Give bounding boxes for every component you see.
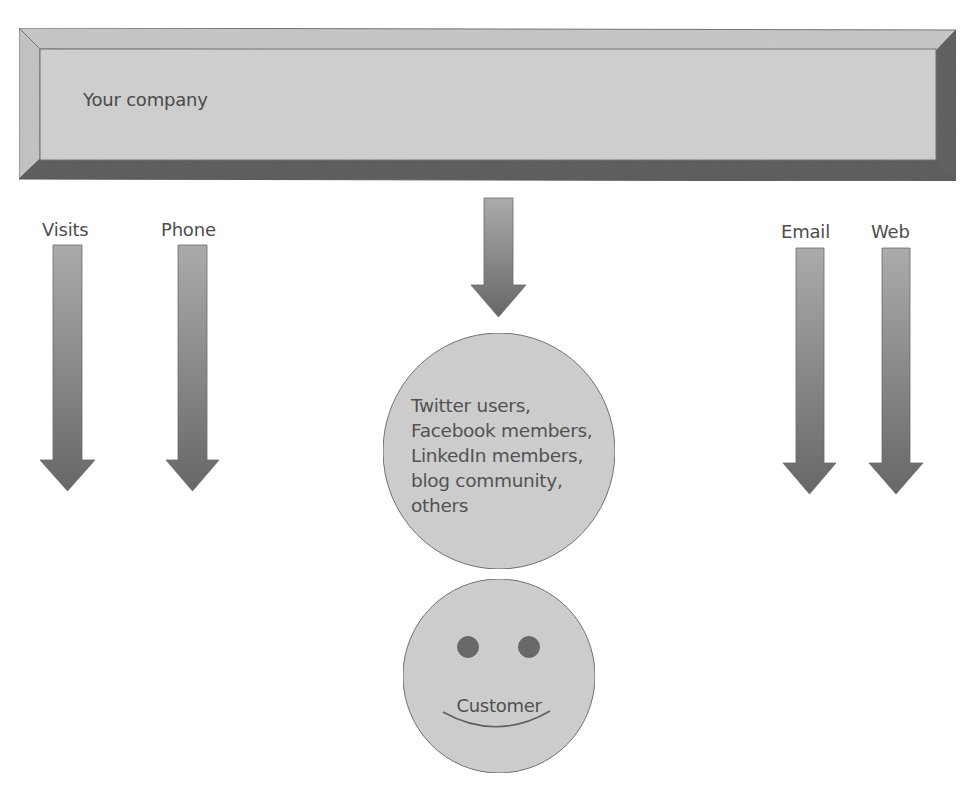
phone-arrow — [166, 245, 219, 491]
diagram-canvas: Your company Visits Phone Email Web Twit… — [0, 0, 974, 810]
community-line: blog community, — [411, 468, 592, 493]
channel-label-phone: Phone — [161, 219, 216, 240]
channel-label-visits: Visits — [42, 219, 89, 240]
community-line: LinkedIn members, — [411, 443, 592, 468]
left-eye-icon — [458, 637, 479, 658]
channel-label-web: Web — [871, 221, 910, 242]
bevel-left — [19, 28, 40, 179]
customer-smiley — [403, 579, 595, 773]
channel-label-email: Email — [781, 221, 830, 242]
visits-arrow — [40, 245, 95, 491]
bevel-bottom — [19, 159, 956, 181]
community-text: Twitter users, Facebook members, LinkedI… — [411, 393, 592, 518]
community-arrow — [471, 198, 526, 317]
email-arrow — [783, 248, 836, 494]
customer-label: Customer — [449, 695, 549, 716]
right-eye-icon — [519, 637, 540, 658]
community-line: others — [411, 493, 592, 518]
company-label: Your company — [83, 89, 208, 110]
bevel-right — [936, 30, 956, 181]
community-line: Facebook members, — [411, 418, 592, 443]
customer-face — [403, 579, 595, 773]
web-arrow — [869, 248, 923, 494]
community-line: Twitter users, — [411, 393, 592, 418]
bevel-top — [19, 28, 956, 51]
